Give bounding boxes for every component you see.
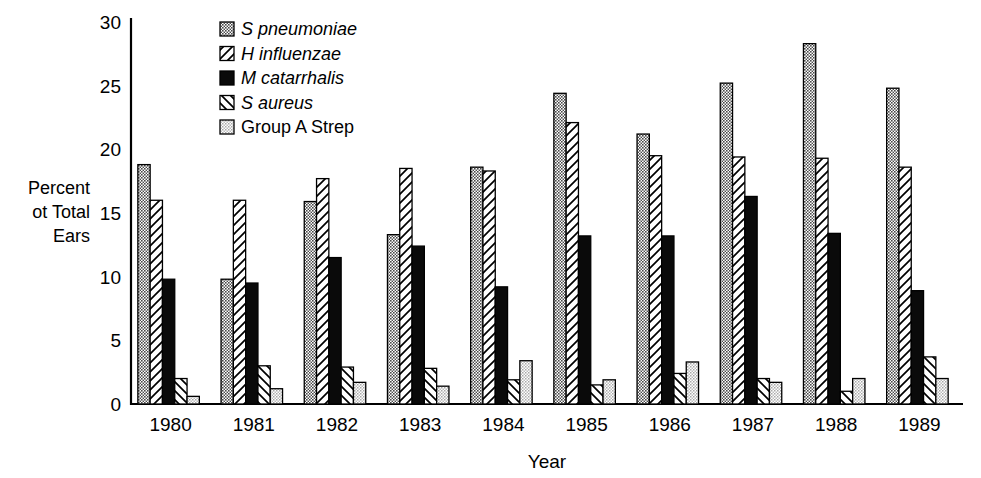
bar-1987-group-a-strep (769, 382, 781, 404)
bar-1985-s-aureus (591, 385, 603, 404)
x-axis-title: Year (528, 451, 567, 472)
y-axis-title: Percentot TotalEars (28, 178, 90, 246)
x-tick-label: 1984 (482, 414, 525, 435)
bar-1981-s-pneumoniae (221, 279, 233, 404)
bar-1989-group-a-strep (936, 379, 948, 404)
x-tick-label: 1982 (316, 414, 358, 435)
legend-swatch-m-catarrhalis (220, 71, 234, 85)
bar-1985-m-catarrhalis (578, 236, 590, 404)
y-tick-label: 25 (100, 76, 121, 97)
bar-1988-s-pneumoniae (803, 44, 815, 404)
bar-1984-s-pneumoniae (471, 167, 483, 404)
bar-1983-s-pneumoniae (387, 235, 399, 404)
bar-1982-m-catarrhalis (329, 258, 341, 404)
bar-1984-m-catarrhalis (495, 287, 507, 404)
bar-1986-m-catarrhalis (662, 236, 674, 404)
y-tick-label: 30 (100, 12, 121, 33)
bar-1981-h-influenzae (233, 200, 245, 404)
x-tick-label: 1985 (565, 414, 607, 435)
bar-chart: 051015202530 198019811982198319841985198… (0, 0, 981, 478)
bar-1986-s-pneumoniae (637, 134, 649, 404)
x-tick-label: 1987 (732, 414, 774, 435)
bar-1985-s-pneumoniae (554, 93, 566, 404)
bar-1989-s-aureus (924, 357, 936, 404)
bar-1985-h-influenzae (566, 123, 578, 404)
bar-1980-s-aureus (175, 379, 187, 404)
bar-1985-group-a-strep (603, 380, 615, 404)
x-axis-title-text: Year (528, 451, 567, 472)
bar-1980-h-influenzae (150, 200, 162, 404)
bar-1983-h-influenzae (400, 168, 412, 404)
y-tick-label: 0 (110, 394, 121, 415)
bar-1987-s-pneumoniae (720, 83, 732, 404)
legend-label-h-influenzae: H influenzae (241, 44, 341, 64)
bar-1984-group-a-strep (520, 361, 532, 404)
bar-1982-group-a-strep (353, 382, 365, 404)
legend-label-s-pneumoniae: S pneumoniae (241, 19, 357, 39)
legend: S pneumoniaeH influenzaeM catarrhalisS a… (220, 19, 357, 137)
bar-1982-s-aureus (341, 367, 353, 404)
bar-1982-s-pneumoniae (304, 202, 316, 404)
chart-canvas: 051015202530 198019811982198319841985198… (0, 0, 981, 478)
bar-1988-m-catarrhalis (828, 233, 840, 404)
bar-1988-s-aureus (840, 391, 852, 404)
x-axis-labels: 1980198119821983198419851986198719881989 (149, 414, 940, 435)
bar-1981-m-catarrhalis (246, 283, 258, 404)
x-tick-label: 1981 (233, 414, 275, 435)
bar-1984-s-aureus (508, 380, 520, 404)
bar-1983-s-aureus (424, 368, 436, 404)
bar-1983-group-a-strep (437, 386, 449, 404)
bar-1980-group-a-strep (187, 396, 199, 404)
y-tick-label: 10 (100, 267, 121, 288)
legend-swatch-s-pneumoniae (220, 22, 234, 36)
bar-1987-m-catarrhalis (745, 196, 757, 404)
legend-label-group-a-strep: Group A Strep (241, 117, 354, 137)
x-tick-label: 1980 (149, 414, 191, 435)
x-tick-label: 1983 (399, 414, 441, 435)
y-tick-label: 15 (100, 203, 121, 224)
y-axis-title-line: ot Total (32, 202, 90, 222)
legend-label-s-aureus: S aureus (241, 93, 313, 113)
bar-1988-group-a-strep (853, 379, 865, 404)
x-tick-label: 1989 (898, 414, 940, 435)
x-tick-label: 1986 (649, 414, 691, 435)
legend-swatch-group-a-strep (220, 120, 234, 134)
bar-1986-group-a-strep (686, 362, 698, 404)
y-axis-title-line: Percent (28, 178, 90, 198)
bar-1984-h-influenzae (483, 171, 495, 404)
bar-1980-m-catarrhalis (162, 279, 174, 404)
bar-1987-h-influenzae (733, 157, 745, 404)
bar-1989-s-pneumoniae (887, 88, 899, 404)
bar-1987-s-aureus (757, 379, 769, 404)
bar-1986-h-influenzae (649, 156, 661, 404)
legend-swatch-s-aureus (220, 96, 234, 110)
bar-1989-m-catarrhalis (911, 291, 923, 404)
bar-1982-h-influenzae (317, 179, 329, 404)
y-axis-ticks: 051015202530 (100, 12, 121, 415)
bar-1981-s-aureus (258, 366, 270, 404)
bar-1981-group-a-strep (270, 389, 282, 404)
bar-1989-h-influenzae (899, 167, 911, 404)
bar-1988-h-influenzae (816, 158, 828, 404)
bar-1983-m-catarrhalis (412, 246, 424, 404)
legend-label-m-catarrhalis: M catarrhalis (241, 68, 344, 88)
bar-1980-s-pneumoniae (138, 165, 150, 404)
y-tick-label: 5 (110, 330, 121, 351)
legend-swatch-h-influenzae (220, 47, 234, 61)
y-tick-label: 20 (100, 139, 121, 160)
x-tick-label: 1988 (815, 414, 857, 435)
y-axis-title-line: Ears (53, 226, 90, 246)
bar-1986-s-aureus (674, 373, 686, 404)
